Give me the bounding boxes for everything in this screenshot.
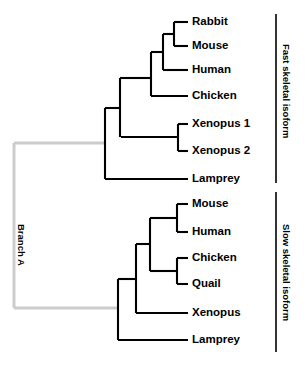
tree-diagram: [0, 0, 307, 366]
tip-label: Human: [192, 226, 231, 238]
branch-a-highlight: [14, 143, 118, 308]
tip-label: Lamprey: [192, 334, 240, 346]
tip-label: Xenopus 1: [192, 118, 250, 130]
tip-label: Mouse: [192, 40, 228, 52]
phylogenetic-tree-figure: RabbitMouseHumanChickenXenopus 1Xenopus …: [0, 0, 307, 366]
branch-a-label: Branch A: [16, 224, 26, 266]
tip-label: Human: [192, 64, 231, 76]
tip-label: Chicken: [192, 252, 237, 264]
tip-label: Lamprey: [192, 173, 240, 185]
tip-label: Quail: [192, 278, 221, 290]
tip-label: Chicken: [192, 90, 237, 102]
tree-branches: [105, 22, 188, 340]
tip-label: Xenopus 2: [192, 145, 250, 157]
tip-label: Mouse: [192, 198, 228, 210]
group-label-slow-skeletal-isoform: Slow skeletal isoform: [281, 224, 291, 321]
tip-label: Xenopus: [192, 307, 241, 319]
group-label-fast-skeletal-isoform: Fast skeletal isoform: [281, 44, 291, 139]
tip-label: Rabbit: [192, 16, 228, 28]
